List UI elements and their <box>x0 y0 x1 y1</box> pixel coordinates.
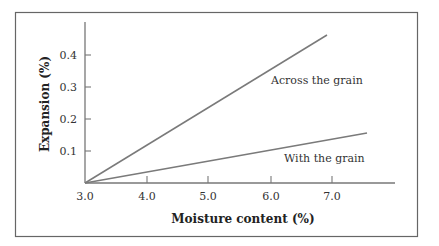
x-tick-label: 6.0 <box>262 190 280 203</box>
annotation-with-the-grain: With the grain <box>284 152 365 165</box>
x-ticks <box>147 176 332 183</box>
x-axis-title: Moisture content (%) <box>171 212 314 226</box>
y-tick-label: 0.4 <box>60 49 78 62</box>
x-tick-label: 7.0 <box>323 190 341 203</box>
y-ticks <box>85 55 91 151</box>
chart: 0.1 0.2 0.3 0.4 3.0 4.0 5.0 6.0 7.0 Acro… <box>0 0 439 246</box>
y-tick-label: 0.2 <box>60 113 78 126</box>
x-tick-label: 4.0 <box>138 190 156 203</box>
annotation-across-the-grain: Across the grain <box>270 74 363 87</box>
x-tick-label: 5.0 <box>199 190 217 203</box>
y-tick-label: 0.3 <box>60 81 78 94</box>
y-axis-title: Expansion (%) <box>38 56 52 152</box>
y-tick-label: 0.1 <box>60 145 78 158</box>
x-tick-label: 3.0 <box>76 190 94 203</box>
